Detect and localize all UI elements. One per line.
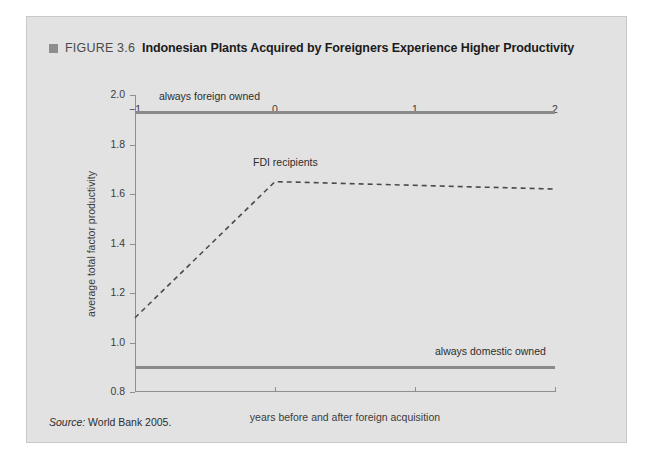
y-tick-label: 1.0 <box>110 336 125 348</box>
y-tick: 0.8 <box>130 392 135 393</box>
figure-header: FIGURE 3.6 Indonesian Plants Acquired by… <box>49 41 574 55</box>
y-tick-label: 2.0 <box>110 88 125 100</box>
y-tick-label: 1.8 <box>110 138 125 150</box>
y-tick-label: 1.6 <box>110 187 125 199</box>
y-tick-label: 1.4 <box>110 237 125 249</box>
source-label: Source: <box>49 416 85 428</box>
y-axis-title: average total factor productivity <box>84 95 98 392</box>
series-label: always foreign owned <box>159 90 260 102</box>
series-label: always domestic owned <box>435 345 546 357</box>
source-note: Source: World Bank 2005. <box>49 416 171 428</box>
x-tick <box>555 387 556 392</box>
y-tick-label: 1.2 <box>110 286 125 298</box>
y-axis-title-label: average total factor productivity <box>85 171 97 317</box>
x-axis-title: years before and after foreign acquisiti… <box>135 411 555 423</box>
source-text: World Bank 2005. <box>88 416 171 428</box>
plot-area: 0.81.01.21.41.61.82.0 −1012 always forei… <box>135 95 555 392</box>
square-bullet-icon <box>49 44 58 53</box>
figure-number: FIGURE 3.6 <box>65 41 135 55</box>
series-label: FDI recipients <box>253 156 318 168</box>
figure-panel: FIGURE 3.6 Indonesian Plants Acquired by… <box>26 16 627 443</box>
y-tick-label: 0.8 <box>110 385 125 397</box>
figure-title: Indonesian Plants Acquired by Foreigners… <box>142 41 574 55</box>
